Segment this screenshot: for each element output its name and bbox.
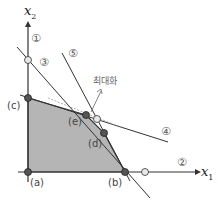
- intersection-point-open: [25, 57, 32, 64]
- vertex-e: [83, 112, 90, 119]
- vertex-d: [101, 130, 108, 137]
- constraint-label-4: ④: [161, 126, 171, 137]
- vertex-label-c: (c): [7, 101, 20, 111]
- diagram-canvas: [0, 0, 221, 198]
- vertex-label-d: (d): [88, 139, 102, 149]
- vertex-a: [25, 169, 32, 176]
- vertex-b: [122, 169, 129, 176]
- intersection-point-open: [94, 116, 101, 123]
- objective-direction-line: [91, 91, 101, 112]
- x2-arrow-icon: [25, 21, 31, 27]
- constraint-label-5: ⑤: [68, 48, 78, 59]
- x1-axis-label: x1: [201, 165, 213, 182]
- vertex-label-e: (e): [68, 117, 82, 127]
- vertex-label-a: (a): [30, 178, 44, 188]
- vertex-c: [25, 95, 32, 102]
- x2-axis-label: x2: [24, 4, 36, 21]
- maximize-label: 최대화: [93, 77, 117, 86]
- intersection-point-open: [142, 169, 149, 176]
- constraint-label-2: ②: [177, 157, 187, 168]
- feasible-region: [28, 98, 125, 172]
- constraint-label-1: ①: [31, 33, 41, 44]
- vertex-label-b: (b): [108, 178, 122, 188]
- lp-diagram: x2 x1 ① ② ③ ④ ⑤ 최대화 (a) (b) (c) (d) (e): [0, 0, 221, 198]
- constraint-label-3: ③: [39, 57, 49, 68]
